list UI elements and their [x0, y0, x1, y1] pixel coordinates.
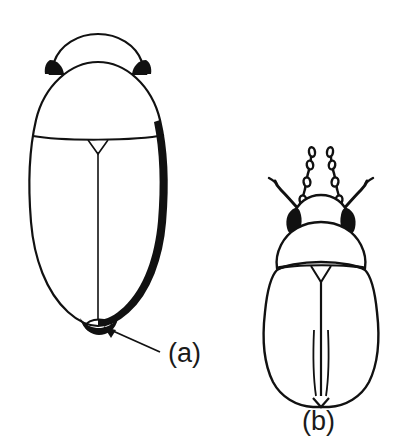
figure-container: (a) (b) — [0, 0, 397, 448]
figure-label-b: (b) — [302, 406, 335, 436]
figure-label-a: (a) — [168, 338, 201, 368]
beetle-figure-illustration: (a) (b) — [0, 0, 397, 448]
